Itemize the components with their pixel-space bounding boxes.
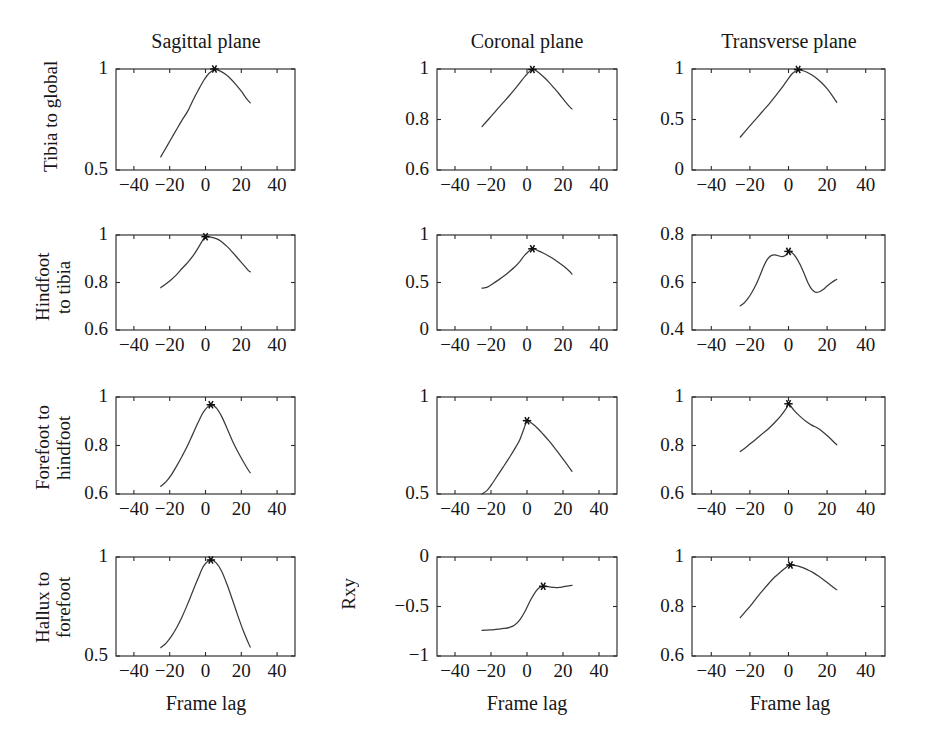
y-tick-label: 0 [675, 158, 685, 179]
cross-correlation-figure: Sagittal plane Coronal plane Transverse … [0, 0, 930, 753]
peak-marker-star [531, 247, 534, 250]
x-tick-label: 0 [522, 498, 532, 519]
x-tick-label: −20 [735, 174, 765, 195]
x-tick-label: 20 [232, 334, 251, 355]
y-tick-label: 0.5 [405, 482, 429, 503]
x-tick-label: 0 [784, 174, 794, 195]
x-tick-label: −40 [440, 334, 470, 355]
correlation-curve [740, 404, 837, 452]
x-tick-label: −20 [155, 174, 185, 195]
peak-marker-star [787, 250, 790, 253]
y-tick-label: 1 [99, 223, 109, 244]
y-tick-label: 0.8 [660, 223, 684, 244]
x-tick-label: 0 [201, 174, 211, 195]
x-tick-label: −20 [155, 334, 185, 355]
x-tick-label: 0 [201, 334, 211, 355]
peak-marker-star [213, 68, 216, 71]
x-tick-label: −20 [155, 660, 185, 681]
y-tick-label: 1 [420, 385, 430, 406]
x-tick-label: 20 [554, 660, 573, 681]
y-tick-label: 0 [420, 545, 430, 566]
x-tick-label: −40 [119, 334, 149, 355]
y-tick-label: 0.8 [660, 595, 684, 616]
x-tick-label: 20 [818, 174, 837, 195]
x-tick-label: 20 [232, 174, 251, 195]
plot-frame [692, 397, 885, 494]
x-tick-label: 40 [590, 334, 609, 355]
x-tick-label: 40 [268, 660, 287, 681]
y-tick-label: 0.8 [84, 434, 108, 455]
y-tick-label: 1 [99, 385, 109, 406]
x-tick-label: 20 [232, 660, 251, 681]
peak-marker-star [789, 563, 792, 566]
plot-frame [116, 557, 295, 656]
plot-frame [692, 235, 885, 330]
y-tick-label: 0.6 [405, 158, 429, 179]
column-title-transverse: Transverse plane [693, 30, 885, 53]
y-tick-label: 0 [420, 318, 430, 339]
x-tick-label: −40 [696, 498, 726, 519]
x-tick-label: 0 [784, 660, 794, 681]
y-tick-label: 1 [99, 57, 109, 78]
correlation-curve [482, 69, 572, 126]
correlation-curve [482, 249, 572, 289]
plot-panel-forefoot-to-hindfoot-sagittal-plane: −40−20020400.60.81 [52, 385, 307, 534]
x-tick-label: 20 [818, 334, 837, 355]
x-tick-label: 0 [522, 660, 532, 681]
correlation-curve [161, 237, 251, 288]
y-tick-label: 1 [420, 223, 430, 244]
x-tick-label: −20 [476, 498, 506, 519]
x-tick-label: −20 [735, 660, 765, 681]
y-tick-label: 0.6 [84, 318, 108, 339]
x-tick-label: 20 [554, 174, 573, 195]
peak-marker-star [209, 558, 212, 561]
peak-marker-star [797, 68, 800, 71]
correlation-curve [740, 70, 837, 137]
plot-panel-forefoot-to-hindfoot-transverse-plane: −40−20020400.60.81 [628, 385, 897, 534]
y-tick-label: 0.6 [660, 271, 684, 292]
peak-marker-star [531, 68, 534, 71]
y-tick-label: 0.6 [660, 644, 684, 665]
x-tick-label: 40 [268, 174, 287, 195]
x-tick-label: −20 [476, 334, 506, 355]
y-tick-label: 0.5 [84, 158, 108, 179]
x-tick-label: 40 [590, 174, 609, 195]
correlation-curve [740, 565, 837, 618]
correlation-curve [482, 585, 572, 630]
plot-panel-hindfoot-to-tibia-coronal-plane: −40−200204000.51 [373, 223, 629, 370]
plot-panel-forefoot-to-hindfoot-coronal-plane: −40−20020400.51 [373, 385, 629, 534]
x-tick-label: −40 [696, 660, 726, 681]
plot-frame [437, 235, 617, 330]
y-axis-label-rxy: Rxy [338, 578, 360, 610]
x-tick-label: 40 [590, 660, 609, 681]
x-tick-label: 20 [554, 498, 573, 519]
x-tick-label: 40 [856, 498, 875, 519]
y-tick-label: 0.8 [84, 271, 108, 292]
peak-marker-star [526, 419, 529, 422]
plot-frame [692, 69, 885, 170]
plot-panel-tibia-to-global-transverse-plane: −40−200204000.51 [628, 57, 897, 210]
x-tick-label: 40 [590, 498, 609, 519]
correlation-curve [161, 560, 251, 648]
x-tick-label: −40 [696, 174, 726, 195]
correlation-curve [161, 70, 251, 157]
y-tick-label: 1 [675, 385, 685, 406]
x-tick-label: 0 [784, 498, 794, 519]
peak-marker-star [542, 585, 545, 588]
x-tick-label: 20 [232, 498, 251, 519]
y-tick-label: 1 [675, 545, 685, 566]
y-tick-label: −0.5 [395, 595, 429, 616]
x-tick-label: −40 [440, 174, 470, 195]
y-tick-label: 0.5 [405, 271, 429, 292]
plot-frame [116, 69, 295, 170]
x-tick-label: −40 [696, 334, 726, 355]
x-tick-label: −40 [119, 498, 149, 519]
x-tick-label: 20 [818, 660, 837, 681]
plot-panel-hallux-to-forefoot-sagittal-plane: −40−20020400.51 [52, 545, 307, 696]
plot-panel-hindfoot-to-tibia-sagittal-plane: −40−20020400.60.81 [52, 223, 307, 370]
plot-frame [437, 69, 617, 170]
y-tick-label: 0.8 [405, 108, 429, 129]
x-tick-label: 40 [856, 334, 875, 355]
y-tick-label: 0.4 [660, 318, 684, 339]
plot-frame [116, 235, 295, 330]
